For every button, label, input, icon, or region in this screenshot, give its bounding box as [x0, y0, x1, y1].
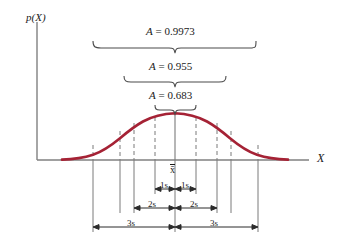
mean-label: x̄: [170, 165, 175, 175]
span-label-1s-right: 1s: [181, 181, 189, 190]
span-text-2s-right: 2s: [190, 199, 198, 209]
arrowhead-2s-left-out: [134, 206, 140, 211]
guide-lines-lower: [93, 160, 258, 232]
arrowhead-3s-right-out: [252, 225, 258, 230]
area-symbol-one-sigma: A: [149, 89, 156, 101]
y-axis-label: p(X): [26, 12, 46, 23]
span-label-3s-left: 3s: [127, 219, 135, 228]
area-symbol-three-sigma: A: [146, 25, 153, 37]
span-label-2s-right: 2s: [190, 200, 198, 209]
mean-label-text: x̄: [170, 165, 175, 175]
normal-distribution-figure: p(X) X A = 0.9973 A = 0.955 A = 0.683 x̄…: [0, 0, 341, 244]
area-symbol-two-sigma: A: [149, 60, 156, 72]
x-axis-label: X: [317, 152, 324, 164]
span-text-2s-left: 2s: [148, 199, 156, 209]
area-value-two-sigma: = 0.955: [158, 60, 192, 72]
area-label-two-sigma: A = 0.955: [149, 61, 192, 72]
guide-lines-upper: [93, 114, 258, 160]
arrowhead-3s-right-in: [175, 225, 181, 230]
arrowhead-3s-left-out: [93, 225, 99, 230]
arrowhead-2s-right-out: [211, 206, 217, 211]
arrowhead-1s-right-out: [190, 187, 196, 192]
area-label-one-sigma: A = 0.683: [149, 90, 192, 101]
span-text-1s-left: 1s: [160, 180, 168, 190]
area-label-three-sigma: A = 0.9973: [146, 26, 195, 37]
brace-three-sigma: [93, 41, 256, 53]
span-text-3s-left: 3s: [127, 218, 135, 228]
span-text-1s-right: 1s: [181, 180, 189, 190]
area-value-three-sigma: = 0.9973: [155, 25, 194, 37]
span-label-1s-left: 1s: [160, 181, 168, 190]
brace-two-sigma: [124, 76, 226, 87]
span-label-2s-left: 2s: [148, 200, 156, 209]
arrowhead-2s-right-in: [175, 206, 181, 211]
area-value-one-sigma: = 0.683: [158, 89, 192, 101]
span-text-3s-right: 3s: [210, 218, 218, 228]
span-label-3s-right: 3s: [210, 219, 218, 228]
brace-one-sigma: [155, 105, 196, 114]
